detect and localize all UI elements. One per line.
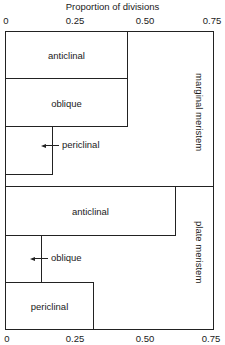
bar-label: oblique bbox=[6, 97, 127, 108]
top-tick-075: 0.75 bbox=[203, 15, 222, 26]
bar-plate-oblique bbox=[5, 235, 42, 283]
label-marginal-periclinal: periclinal bbox=[62, 139, 100, 150]
bar-marginal-periclinal bbox=[5, 126, 53, 175]
chart-title: Proportion of divisions bbox=[0, 1, 225, 12]
bar-label: anticlinal bbox=[6, 206, 175, 217]
bottom-tick-025: 0.25 bbox=[66, 333, 85, 344]
pointer-line bbox=[45, 145, 59, 146]
top-tick-025: 0.25 bbox=[66, 15, 85, 26]
bottom-tick-050: 0.50 bbox=[136, 333, 155, 344]
bottom-tick-075: 0.75 bbox=[202, 333, 221, 344]
label-plate-oblique: oblique bbox=[51, 252, 82, 263]
group-label-marginal: marginal meristem bbox=[194, 73, 205, 151]
bar-marginal-anticlinal: anticlinal bbox=[5, 31, 128, 79]
bar-marginal-oblique: oblique bbox=[5, 78, 128, 127]
bottom-tick-0: 0 bbox=[4, 333, 9, 344]
pointer-line bbox=[34, 258, 48, 259]
top-tick-050: 0.50 bbox=[136, 15, 155, 26]
bar-label: periclinal bbox=[6, 301, 93, 312]
bar-plate-anticlinal: anticlinal bbox=[5, 186, 176, 236]
group-label-plate: plate meristem bbox=[194, 221, 205, 283]
bar-plate-periclinal: periclinal bbox=[5, 282, 94, 330]
top-tick-0: 0 bbox=[3, 15, 8, 26]
bar-label: anticlinal bbox=[6, 50, 127, 61]
